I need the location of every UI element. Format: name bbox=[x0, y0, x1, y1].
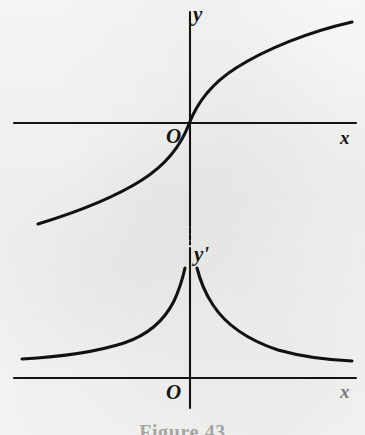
bottom-x-axis-label: x bbox=[340, 382, 350, 401]
bottom-y-axis-label: y' bbox=[194, 244, 209, 265]
figure-page: y x O y' x O Figure 43 bbox=[0, 0, 365, 435]
bottom-origin-label: O bbox=[166, 382, 181, 403]
bottom-plot-graphic bbox=[0, 0, 365, 435]
derivative-right-branch bbox=[197, 268, 352, 361]
figure-caption: Figure 43 bbox=[0, 421, 365, 435]
derivative-left-branch bbox=[22, 268, 185, 359]
